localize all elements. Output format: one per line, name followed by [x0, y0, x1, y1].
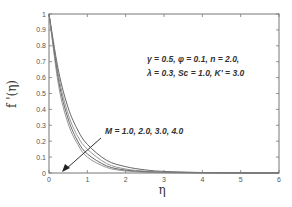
arrow-label: M = 1.0, 2.0, 3.0, 4.0 — [105, 126, 183, 136]
x-tick-label: 3 — [162, 176, 166, 183]
y-tick-label: 0.4 — [36, 106, 46, 113]
y-tick-label: 0.9 — [36, 26, 46, 33]
y-tick-label: 1 — [42, 11, 46, 18]
params-line-2: λ = 0.3, Sc = 1.0, K' = 3.0 — [146, 68, 245, 78]
x-tick-label: 1 — [85, 176, 89, 183]
y-tick-label: 0.5 — [36, 90, 46, 97]
x-tick-label: 6 — [277, 176, 281, 183]
y-tick-label: 0.6 — [36, 74, 46, 81]
x-tick-label: 4 — [200, 176, 204, 183]
x-tick-label: 5 — [239, 176, 243, 183]
x-axis-label: η — [158, 183, 165, 197]
y-tick-label: 0.2 — [36, 138, 46, 145]
y-tick-label: 0 — [42, 170, 46, 177]
x-tick-label: 0 — [47, 176, 51, 183]
y-tick-label: 0.1 — [36, 154, 46, 161]
y-tick-label: 0.8 — [36, 42, 46, 49]
y-axis-label: f '(η) — [5, 80, 19, 108]
x-tick-label: 2 — [124, 176, 128, 183]
plot-frame — [49, 14, 279, 173]
line-chart: 00.10.20.30.40.50.60.70.80.91 0123456 γ … — [0, 0, 292, 207]
params-line-1: γ = 0.5, φ = 0.1, n = 2.0, — [147, 54, 239, 64]
y-tick-label: 0.7 — [36, 58, 46, 65]
y-tick-label: 0.3 — [36, 122, 46, 129]
